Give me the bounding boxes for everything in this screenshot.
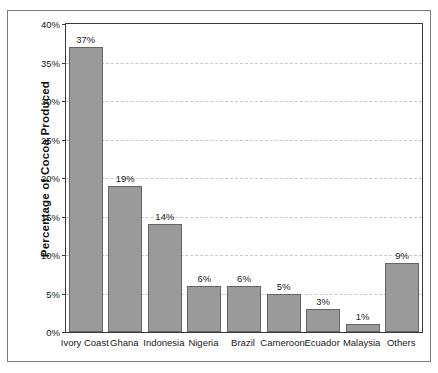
x-tick-label: Ghana <box>110 337 139 348</box>
bar <box>346 324 380 332</box>
bar-value-label: 37% <box>76 34 95 45</box>
bar <box>306 309 340 332</box>
bar-group: 19% <box>106 24 146 332</box>
x-axis: Ivory CoastGhanaIndonesiaNigeriaBrazilCa… <box>65 337 423 355</box>
bar-group: 1% <box>343 24 383 332</box>
bar <box>385 263 419 332</box>
x-tick-label: Ivory Coast <box>61 337 109 348</box>
y-tick-mark <box>62 332 66 333</box>
plot-area: 0%5%10%15%20%25%30%35%40% 37%19%14%6%6%5… <box>65 23 423 333</box>
bar-group: 6% <box>224 24 264 332</box>
bar-value-label: 14% <box>155 211 174 222</box>
bar-value-label: 19% <box>116 173 135 184</box>
x-tick-label: Malaysia <box>343 337 381 348</box>
bar <box>108 186 142 332</box>
y-tick-label: 15% <box>41 211 60 222</box>
x-tick-label: Others <box>387 337 416 348</box>
x-tick-label: Ecuador <box>304 337 339 348</box>
y-tick-label: 5% <box>46 288 60 299</box>
bar-group: 5% <box>264 24 304 332</box>
bar-group: 3% <box>303 24 343 332</box>
x-tick-label: Brazil <box>231 337 255 348</box>
y-tick-label: 40% <box>41 19 60 30</box>
y-tick-label: 0% <box>46 327 60 338</box>
y-tick-label: 25% <box>41 134 60 145</box>
bar-group: 37% <box>66 24 106 332</box>
bar <box>69 47 103 332</box>
bar <box>227 286 261 332</box>
y-tick-label: 35% <box>41 57 60 68</box>
bar <box>187 286 221 332</box>
bar <box>267 294 301 333</box>
x-tick-label: Cameroon <box>260 337 304 348</box>
bar-group: 14% <box>145 24 185 332</box>
bars-layer: 37%19%14%6%6%5%3%1%9% <box>66 24 422 332</box>
y-tick-label: 20% <box>41 173 60 184</box>
x-tick-label: Indonesia <box>143 337 184 348</box>
bar-value-label: 1% <box>356 311 370 322</box>
bar-value-label: 5% <box>277 281 291 292</box>
bar-group: 9% <box>382 24 422 332</box>
bar-value-label: 6% <box>198 273 212 284</box>
y-tick-label: 30% <box>41 96 60 107</box>
bar <box>148 224 182 332</box>
bar-value-label: 9% <box>395 250 409 261</box>
y-tick-label: 10% <box>41 250 60 261</box>
chart-figure: Percentage of Cocoa Produced 0%5%10%15%2… <box>7 10 431 362</box>
x-tick-label: Nigeria <box>188 337 218 348</box>
bar-group: 6% <box>185 24 225 332</box>
bar-value-label: 3% <box>316 296 330 307</box>
bar-value-label: 6% <box>237 273 251 284</box>
